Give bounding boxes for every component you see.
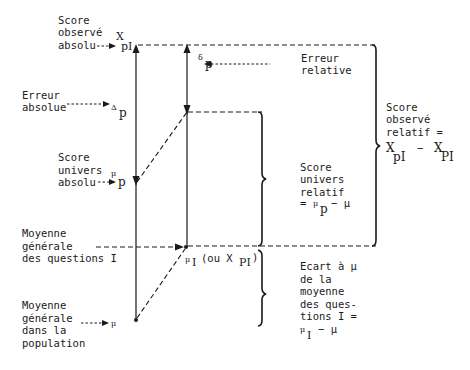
svg-text:− μ: − μ [318,323,338,335]
svg-text:absolu: absolu [58,176,96,188]
label-deviation: Ecart à μ de la moyenne des ques- tions … [300,260,358,322]
svg-text:univers: univers [58,164,102,176]
svg-text:μ: μ [111,169,116,178]
svg-text:relatif =: relatif = [386,126,443,138]
svg-text:μ: μ [313,199,318,208]
svg-text:dans la: dans la [22,324,66,336]
symbol-delta-p: Δ p [111,103,127,120]
svg-text:de la: de la [300,273,332,285]
brace-deviation [258,250,266,326]
svg-text:pI: pI [393,150,406,164]
symbol-x-pi: X pI [116,30,132,53]
mean-questions-arrowhead [175,244,184,251]
svg-text:− μ: − μ [331,197,351,209]
svg-text:δ: δ [198,53,203,62]
svg-text:p: p [320,202,328,216]
point-mu [134,318,138,322]
svg-text:absolu: absolu [58,39,96,51]
diagonal-mup-to-relative [137,112,187,182]
arrowhead-down-relative [184,105,191,115]
svg-text:univers: univers [300,173,344,185]
svg-text:des ques-: des ques- [300,298,357,310]
absolute-error-arrowhead [103,101,110,107]
svg-text:Moyenne: Moyenne [22,227,66,239]
svg-text:I: I [192,256,196,269]
brace-universe-relative [258,112,266,246]
svg-text:moyenne: moyenne [300,285,344,297]
label-population-mean: Moyenne générale dans la population [22,299,85,349]
svg-text:population: population [22,337,85,349]
label-observed-relative: Score observé relatif = [386,101,443,138]
svg-text:=: = [300,197,306,209]
label-absolute-error: Erreur absolue [22,89,66,113]
label-relative-error: Erreur relative [301,52,352,76]
svg-text:Δ: Δ [111,103,117,112]
svg-text:p: p [205,57,213,71]
observed-absolute-arrowhead [109,43,116,49]
svg-text:absolue: absolue [22,101,66,113]
svg-text:observé: observé [58,26,102,38]
symbol-mu: μ [111,319,116,328]
svg-text:p: p [118,175,126,189]
svg-text:tions I =: tions I = [300,310,357,322]
formula-universe-relative: = μ p − μ [300,197,351,216]
svg-text:observé: observé [386,113,430,125]
svg-text:relative: relative [301,64,352,76]
label-universe-absolute: Score univers absolu [58,151,102,188]
symbol-delta-relative: δ p [198,53,213,71]
brace-observed-relative [372,45,380,246]
svg-text:−: − [417,142,423,154]
svg-text:Score: Score [386,101,418,113]
point-mu-i [184,245,188,249]
diagonal-mu-to-mui [137,249,185,318]
svg-text:): ) [252,251,258,263]
population-mean-arrowhead [102,320,109,326]
svg-text:pI: pI [121,40,132,53]
svg-text:générale: générale [22,312,73,324]
svg-text:Score: Score [300,161,332,173]
svg-text:p: p [119,106,127,120]
arrowhead-down-mup [133,176,140,186]
svg-text:PI: PI [239,256,251,269]
label-universe-relative: Score univers relatif [300,161,344,198]
formula-observed-relative: X pI − X PI [386,141,454,164]
svg-text:μ: μ [300,325,305,334]
label-observed-absolute: Score observé absolu [58,14,102,51]
svg-text:générale: générale [22,240,73,252]
svg-text:Erreur: Erreur [301,52,339,64]
symbol-mu-i: μ I (ou X PI ) [185,251,258,269]
svg-text:Score: Score [58,14,90,26]
svg-text:PI: PI [441,150,454,164]
svg-text:Erreur: Erreur [22,89,60,101]
generalizability-score-diagram: Score observé absolu X pI Erreur absolue… [0,0,470,370]
symbol-mu-p: μ p [111,169,126,189]
svg-text:(ou X: (ou X [201,252,233,264]
universe-absolute-arrowhead [109,179,116,185]
label-mean-questions: Moyenne générale des questions I [22,227,117,264]
svg-text:Moyenne: Moyenne [22,299,66,311]
svg-text:μ: μ [185,255,190,264]
svg-text:Score: Score [58,151,90,163]
formula-deviation: μ I − μ [300,323,338,342]
svg-text:I: I [307,329,311,342]
svg-text:des questions I: des questions I [22,252,117,264]
svg-text:Ecart à μ: Ecart à μ [300,260,358,272]
